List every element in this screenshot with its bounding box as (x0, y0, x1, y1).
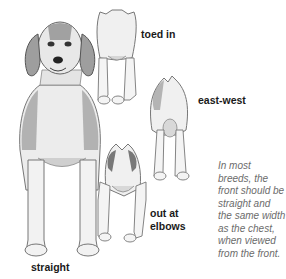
east-west-legs-illustration (151, 76, 190, 180)
label-out-at-elbows-line1: out at (150, 207, 179, 219)
label-east-west: east-west (198, 94, 246, 106)
label-straight: straight (31, 261, 70, 273)
straight-dog-illustration (20, 22, 101, 256)
toed-in-legs-illustration (97, 10, 136, 104)
conformation-figure: toed in east-west out at elbows straight… (0, 0, 286, 279)
out-at-elbows-legs-illustration (98, 144, 146, 242)
label-out-at-elbows-line2: elbows (150, 220, 186, 232)
label-toed-in: toed in (141, 28, 175, 40)
figure-caption: In most breeds, the front should be stra… (218, 160, 286, 260)
